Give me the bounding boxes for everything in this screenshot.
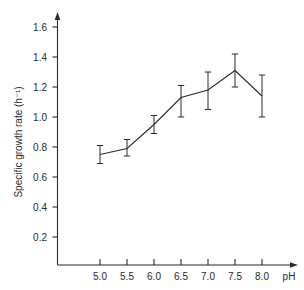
ph-growth-rate-line-chart: 0.2 0.4 0.6 0.8 1.0 1.2 1.4 1.6 5.0 5.5 …: [0, 0, 304, 290]
x-tick-label-6: 8.0: [255, 271, 269, 282]
x-tick-label-0: 5.0: [93, 271, 107, 282]
y-axis-arrowhead: [55, 12, 61, 20]
y-tick-label-5: 1.2: [33, 82, 47, 93]
y-tick-label-1: 0.4: [33, 202, 47, 213]
y-tick-label-7: 1.6: [33, 22, 47, 33]
data-series-layer: [97, 54, 265, 164]
y-tick-label-4: 1.0: [33, 112, 47, 123]
error-bar: [124, 140, 130, 157]
error-bar: [151, 116, 157, 134]
x-axis-title: pH: [283, 271, 296, 282]
chart-figure: 0.2 0.4 0.6 0.8 1.0 1.2 1.4 1.6 5.0 5.5 …: [0, 0, 304, 290]
y-tick-label-3: 0.8: [33, 142, 47, 153]
x-axis-ticks: 5.0 5.5 6.0 6.5 7.0 7.5 8.0: [93, 259, 269, 282]
y-axis-ticks: 0.2 0.4 0.6 0.8 1.0 1.2 1.4 1.6: [33, 22, 57, 243]
y-tick-label-6: 1.4: [33, 52, 47, 63]
error-bar: [178, 86, 184, 118]
x-tick-label-3: 6.5: [174, 271, 188, 282]
y-tick-label-0: 0.2: [33, 232, 47, 243]
y-axis-title: Specific growth rate (h⁻¹): [13, 86, 24, 197]
x-tick-label-4: 7.0: [201, 271, 215, 282]
x-tick-label-2: 6.0: [147, 271, 161, 282]
error-bar: [259, 75, 265, 117]
x-axis-arrowhead: [290, 262, 298, 268]
y-tick-label-2: 0.6: [33, 172, 47, 183]
x-tick-label-5: 7.5: [228, 271, 242, 282]
x-tick-label-1: 5.5: [120, 271, 134, 282]
error-bar: [232, 54, 238, 87]
